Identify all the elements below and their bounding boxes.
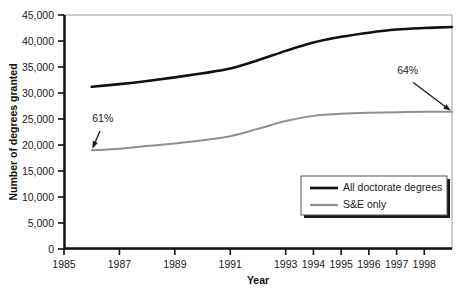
x-tick-label: 1996 (357, 258, 381, 270)
line-chart: 05,00010,00015,00020,00025,00030,00035,0… (0, 0, 466, 295)
x-axis-ticks (64, 249, 424, 255)
y-axis-title: Number of degrees granted (7, 63, 19, 200)
chart-figure: 05,00010,00015,00020,00025,00030,00035,0… (0, 0, 466, 295)
annotation-label-61: 61% (92, 112, 113, 124)
y-tick-label: 0 (48, 243, 54, 255)
x-axis-tick-labels: 1985198719891991199319941995199619971998 (52, 258, 436, 270)
y-tick-label: 30,000 (22, 87, 54, 99)
annotation-label-64: 64% (397, 64, 418, 76)
x-tick-label: 1987 (108, 258, 132, 270)
y-tick-label: 20,000 (22, 139, 54, 151)
x-tick-label: 1993 (274, 258, 298, 270)
x-tick-label: 1997 (385, 258, 409, 270)
x-tick-label: 1989 (163, 258, 187, 270)
y-tick-label: 40,000 (22, 35, 54, 47)
y-tick-label: 5,000 (28, 217, 54, 229)
y-tick-label: 10,000 (22, 191, 54, 203)
y-axis-tick-labels: 05,00010,00015,00020,00025,00030,00035,0… (22, 9, 54, 255)
y-tick-label: 35,000 (22, 61, 54, 73)
chart-legend: All doctorate degreesS&E only (301, 176, 450, 218)
legend-label-0: All doctorate degrees (343, 181, 442, 193)
legend-label-1: S&E only (343, 198, 387, 210)
y-tick-label: 15,000 (22, 165, 54, 177)
x-tick-label: 1998 (413, 258, 437, 270)
x-tick-label: 1994 (302, 258, 326, 270)
x-tick-label: 1985 (52, 258, 76, 270)
y-axis-ticks (58, 15, 64, 249)
x-tick-label: 1991 (219, 258, 243, 270)
x-axis-title: Year (247, 274, 269, 286)
x-tick-label: 1995 (329, 258, 353, 270)
y-tick-label: 45,000 (22, 9, 54, 21)
y-tick-label: 25,000 (22, 113, 54, 125)
